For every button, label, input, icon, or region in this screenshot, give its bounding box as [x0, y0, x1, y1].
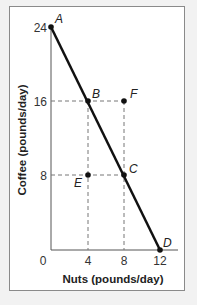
label-a: A [54, 12, 63, 26]
ppf-line [51, 27, 160, 250]
x-tick-8: 8 [121, 254, 128, 268]
point-a [48, 24, 54, 30]
x-axis-title: Nuts (pounds/day) [63, 273, 164, 285]
y-tick-24: 24 [34, 21, 48, 35]
point-f [121, 98, 127, 104]
x-tick-4: 4 [85, 254, 92, 268]
point-b [85, 98, 91, 104]
x-tick-0: 0 [40, 254, 47, 268]
point-d [157, 247, 163, 253]
y-tick-16: 16 [34, 95, 48, 109]
label-d: D [163, 236, 172, 250]
point-c [121, 172, 127, 178]
x-tick-12: 12 [153, 254, 167, 268]
y-tick-8: 8 [40, 169, 47, 183]
point-e [85, 172, 91, 178]
y-axis-title: Coffee (pounds/day) [16, 84, 28, 195]
label-f: F [130, 87, 138, 101]
label-c: C [129, 162, 138, 176]
label-b: B [92, 87, 100, 101]
ppf-chart: A B C D E F 24 16 8 0 4 8 12 Nuts (pound… [0, 0, 197, 305]
label-e: E [74, 176, 83, 190]
